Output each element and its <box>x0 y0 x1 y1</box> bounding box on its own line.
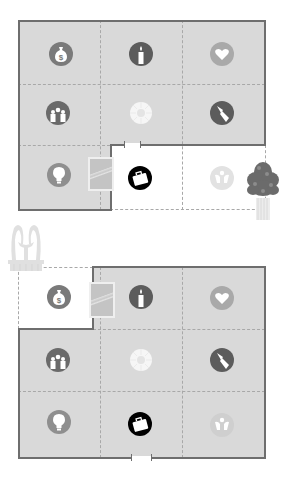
angel-icon <box>210 413 234 437</box>
briefcase-icon <box>128 412 152 436</box>
lightbulb-icon <box>47 410 71 434</box>
wall <box>18 328 20 458</box>
family-icon <box>46 348 70 372</box>
money-bag-icon: $ <box>47 285 71 309</box>
mirror <box>89 282 115 318</box>
paintbrush-icon <box>210 348 234 372</box>
wall <box>92 266 266 268</box>
sun-icon <box>129 348 153 372</box>
door-jamb <box>151 454 152 461</box>
door-opening <box>131 456 151 459</box>
grid-line <box>18 391 265 392</box>
wall <box>264 266 266 458</box>
svg-text:$: $ <box>57 296 62 305</box>
door-jamb <box>131 454 132 461</box>
fountain <box>6 220 46 274</box>
candle-icon <box>129 285 153 309</box>
wall <box>18 328 94 330</box>
missing-area-outline <box>18 267 19 329</box>
grid-line <box>93 329 265 330</box>
heart-icon <box>210 286 234 310</box>
floor-plan-bottom: $ <box>0 0 285 483</box>
room-area-main <box>93 267 265 329</box>
grid-line <box>182 267 183 458</box>
